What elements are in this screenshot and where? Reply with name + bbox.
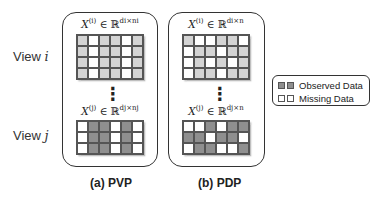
- observed-cell: [194, 57, 205, 68]
- observed-cell: [99, 46, 110, 57]
- pvp-ellipsis: ⋮: [104, 88, 114, 100]
- observed-cell: [238, 68, 249, 79]
- observed-cell: [205, 143, 216, 154]
- missing-cell: [132, 143, 143, 154]
- observed-cell: [99, 68, 110, 79]
- missing-cell: [110, 121, 121, 132]
- missing-cell: [132, 132, 143, 143]
- missing-cell: [110, 132, 121, 143]
- missing-cell: [216, 121, 227, 132]
- pdp-caption: (b) PDP: [198, 176, 241, 190]
- missing-cell: [238, 132, 249, 143]
- missing-cell: [238, 35, 249, 46]
- view-j-label: View j: [13, 128, 49, 143]
- observed-cell: [110, 46, 121, 57]
- missing-cell: [216, 143, 227, 154]
- observed-cell: [121, 132, 132, 143]
- observed-cell: [227, 35, 238, 46]
- observed-cell: [194, 143, 205, 154]
- view-i-prefix: View: [13, 49, 45, 64]
- missing-swatch-1: [278, 95, 285, 102]
- missing-cell: [121, 46, 132, 57]
- observed-cell: [77, 68, 88, 79]
- observed-cell: [216, 57, 227, 68]
- missing-cell: [227, 143, 238, 154]
- pvp-caption: (a) PVP: [90, 176, 132, 190]
- view-i-label: View i: [13, 49, 49, 64]
- observed-cell: [121, 143, 132, 154]
- missing-cell: [183, 143, 194, 154]
- missing-cell: [88, 57, 99, 68]
- pdp-view-i-matrix: [182, 34, 250, 80]
- observed-cell: [99, 57, 110, 68]
- missing-cell: [121, 68, 132, 79]
- observed-cell: [183, 35, 194, 46]
- observed-swatch-dark: [287, 82, 294, 89]
- pdp-view-j-matrix: [182, 120, 250, 155]
- observed-cell: [238, 46, 249, 57]
- view-j-prefix: View: [13, 128, 45, 143]
- pvp-view-j-matrix: [76, 120, 144, 155]
- legend-observed: Observed Data: [278, 80, 363, 91]
- missing-cell: [88, 46, 99, 57]
- observed-cell: [216, 35, 227, 46]
- observed-cell: [132, 68, 143, 79]
- missing-cell: [77, 121, 88, 132]
- missing-cell: [110, 143, 121, 154]
- observed-cell: [110, 35, 121, 46]
- observed-cell: [77, 57, 88, 68]
- missing-cell: [205, 57, 216, 68]
- observed-cell: [99, 35, 110, 46]
- observed-cell: [227, 132, 238, 143]
- missing-cell: [183, 121, 194, 132]
- observed-cell: [77, 35, 88, 46]
- missing-cell: [77, 132, 88, 143]
- observed-swatch-light: [278, 82, 285, 89]
- pdp-ellipsis: ⋮: [211, 88, 221, 100]
- pvp-bottom-matrix-label: X(j) ∈ ℝdj×nj: [70, 104, 150, 117]
- observed-cell: [227, 46, 238, 57]
- observed-cell: [88, 143, 99, 154]
- observed-cell: [194, 46, 205, 57]
- observed-cell: [216, 132, 227, 143]
- observed-cell: [132, 46, 143, 57]
- missing-cell: [121, 57, 132, 68]
- pdp-top-matrix-label: X(i) ∈ ℝdi×n: [176, 17, 256, 30]
- missing-cell: [183, 57, 194, 68]
- pdp-bottom-matrix-label: X(j) ∈ ℝdj×n: [176, 104, 256, 117]
- legend: Observed Data Missing Data: [272, 75, 370, 106]
- missing-cell: [121, 35, 132, 46]
- missing-cell: [88, 35, 99, 46]
- observed-cell: [238, 143, 249, 154]
- pvp-top-matrix-label: X(i) ∈ ℝdi×ni: [70, 17, 150, 30]
- pvp-view-i-matrix: [76, 34, 144, 80]
- legend-observed-label: Observed Data: [299, 80, 363, 91]
- observed-cell: [110, 57, 121, 68]
- missing-cell: [227, 57, 238, 68]
- observed-cell: [110, 68, 121, 79]
- observed-cell: [238, 121, 249, 132]
- missing-cell: [216, 68, 227, 79]
- missing-swatch-2: [287, 95, 294, 102]
- observed-cell: [194, 68, 205, 79]
- observed-cell: [121, 121, 132, 132]
- observed-cell: [205, 121, 216, 132]
- view-j-var: j: [45, 128, 49, 143]
- observed-cell: [205, 46, 216, 57]
- observed-cell: [227, 68, 238, 79]
- observed-cell: [227, 121, 238, 132]
- missing-cell: [194, 121, 205, 132]
- observed-cell: [132, 35, 143, 46]
- legend-missing-label: Missing Data: [299, 93, 354, 104]
- legend-missing: Missing Data: [278, 93, 354, 104]
- missing-cell: [194, 35, 205, 46]
- missing-cell: [88, 68, 99, 79]
- observed-cell: [238, 57, 249, 68]
- observed-cell: [194, 132, 205, 143]
- observed-cell: [99, 121, 110, 132]
- observed-cell: [88, 132, 99, 143]
- observed-cell: [88, 121, 99, 132]
- observed-cell: [99, 132, 110, 143]
- missing-cell: [183, 46, 194, 57]
- missing-cell: [205, 35, 216, 46]
